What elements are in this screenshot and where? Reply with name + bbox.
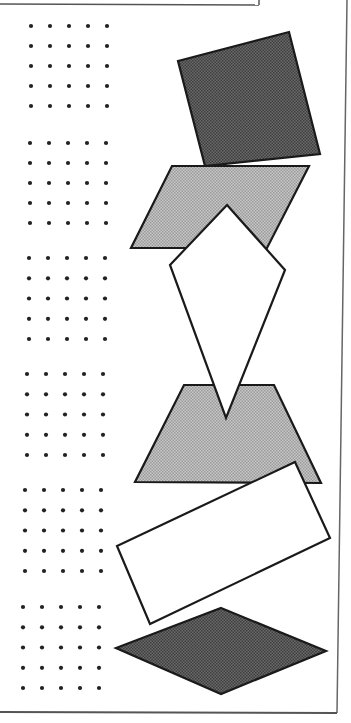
grid-dot: [46, 276, 50, 280]
grid-dot: [29, 64, 33, 68]
grid-dot: [27, 317, 31, 321]
grid-dot: [105, 84, 109, 88]
grid-dot: [65, 256, 69, 260]
grid-dot: [42, 549, 46, 553]
grid-dot: [65, 337, 69, 341]
grid-dot: [65, 317, 69, 321]
grid-dot: [47, 221, 51, 225]
grid-dot: [78, 625, 82, 629]
grid-dot: [29, 44, 33, 48]
grid-dot: [44, 433, 48, 437]
grid-dot: [86, 24, 90, 28]
grid-dot: [59, 666, 63, 670]
grid-dot: [28, 141, 32, 145]
grid-dot: [59, 645, 63, 649]
grid-dot: [84, 296, 88, 300]
grid-dot: [86, 84, 90, 88]
grid-dot: [21, 686, 25, 690]
grid-dot: [40, 605, 44, 609]
grid-dot: [66, 201, 70, 205]
grid-dot: [67, 24, 71, 28]
grid-dot: [21, 625, 25, 629]
grid-dot: [84, 276, 88, 280]
grid-dot: [78, 686, 82, 690]
grid-dot: [99, 528, 103, 532]
grid-dot: [97, 686, 101, 690]
grid-dot: [40, 686, 44, 690]
grid-dot: [59, 686, 63, 690]
grid-dot: [23, 488, 27, 492]
grid-dot: [85, 221, 89, 225]
grid-dot: [103, 256, 107, 260]
grid-dot: [44, 372, 48, 376]
grid-dot: [44, 412, 48, 416]
grid-dot: [59, 605, 63, 609]
grid-dot: [28, 181, 32, 185]
grid-dot: [66, 181, 70, 185]
worksheet-page: [0, 0, 351, 723]
grid-dot: [82, 412, 86, 416]
grid-dot: [104, 141, 108, 145]
grid-dot: [85, 201, 89, 205]
grid-dot: [99, 569, 103, 573]
grid-dot: [44, 453, 48, 457]
grid-dot: [84, 317, 88, 321]
grid-dot: [101, 372, 105, 376]
grid-dot: [61, 488, 65, 492]
grid-dot: [40, 625, 44, 629]
grid-dot: [97, 666, 101, 670]
grid-dot: [84, 256, 88, 260]
grid-dot: [99, 488, 103, 492]
grid-dot: [82, 372, 86, 376]
grid-dot: [63, 453, 67, 457]
grid-dot: [67, 104, 71, 108]
grid-dot: [23, 508, 27, 512]
grid-dot: [46, 337, 50, 341]
grid-dot: [25, 453, 29, 457]
grid-dot: [82, 392, 86, 396]
grid-dot: [97, 625, 101, 629]
grid-dot: [48, 64, 52, 68]
grid-dot: [46, 296, 50, 300]
grid-dot: [86, 104, 90, 108]
grid-dot: [46, 256, 50, 260]
dot-grids: [21, 24, 109, 690]
grid-dot: [48, 104, 52, 108]
grid-dot: [63, 392, 67, 396]
grid-dot: [40, 666, 44, 670]
grid-dot: [82, 433, 86, 437]
grid-dot: [27, 296, 31, 300]
grid-dot: [66, 221, 70, 225]
grid-dot: [23, 549, 27, 553]
grid-dot: [66, 141, 70, 145]
grid-dot: [28, 161, 32, 165]
grid-dot: [29, 24, 33, 28]
grid-dot: [29, 104, 33, 108]
right-border: [337, 0, 347, 713]
grid-dot: [27, 337, 31, 341]
grid-dot: [101, 453, 105, 457]
grid-dot: [40, 645, 44, 649]
grid-dot: [105, 104, 109, 108]
grid-dot: [25, 433, 29, 437]
grid-dot: [86, 64, 90, 68]
grid-dot: [48, 84, 52, 88]
rectangle-shape: [117, 462, 330, 624]
grid-dot: [25, 412, 29, 416]
grid-dot: [59, 625, 63, 629]
dot-grid-6: [21, 605, 101, 690]
grid-dot: [86, 44, 90, 48]
grid-dot: [101, 392, 105, 396]
grid-dot: [104, 181, 108, 185]
grid-dot: [23, 528, 27, 532]
grid-dot: [67, 64, 71, 68]
grid-dot: [85, 181, 89, 185]
square-shape: [178, 32, 320, 166]
grid-dot: [46, 317, 50, 321]
grid-dot: [80, 488, 84, 492]
grid-dot: [61, 508, 65, 512]
bottom-border: [0, 712, 337, 713]
grid-dot: [82, 453, 86, 457]
grid-dot: [44, 392, 48, 396]
grid-dot: [47, 201, 51, 205]
